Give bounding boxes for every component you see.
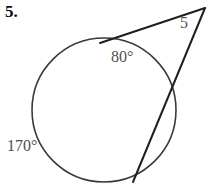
far-arc-measure-label: 170° <box>7 138 37 154</box>
unknown-angle-label: 5 <box>180 15 188 31</box>
problem-number: 5. <box>5 3 18 20</box>
geometry-figure: 5. 5 80° 170° <box>0 0 210 190</box>
near-arc-measure-label: 80° <box>111 49 133 65</box>
secant-line <box>133 8 205 182</box>
circle-shape <box>32 38 176 182</box>
tangent-line <box>100 8 205 43</box>
geometry-canvas <box>0 0 210 190</box>
